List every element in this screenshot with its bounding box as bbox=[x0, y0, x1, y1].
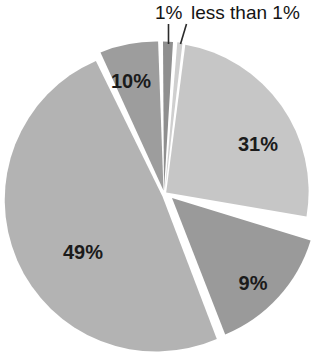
pie-chart: 31% 9% 49% 10% 1% less than 1% bbox=[0, 0, 329, 356]
slice-label-9: 9% bbox=[239, 272, 268, 294]
pie-chart-page: 31% 9% 49% 10% 1% less than 1% bbox=[0, 0, 329, 356]
slice-label-10: 10% bbox=[111, 70, 151, 92]
slice-label-49: 49% bbox=[63, 241, 103, 263]
leader-line-less-than-1-percent bbox=[181, 24, 187, 44]
pie-slice-31[interactable] bbox=[166, 45, 308, 217]
callout-label-less-than-1-percent: less than 1% bbox=[191, 2, 300, 23]
slice-label-31: 31% bbox=[238, 133, 278, 155]
callout-label-1-percent: 1% bbox=[155, 2, 183, 23]
